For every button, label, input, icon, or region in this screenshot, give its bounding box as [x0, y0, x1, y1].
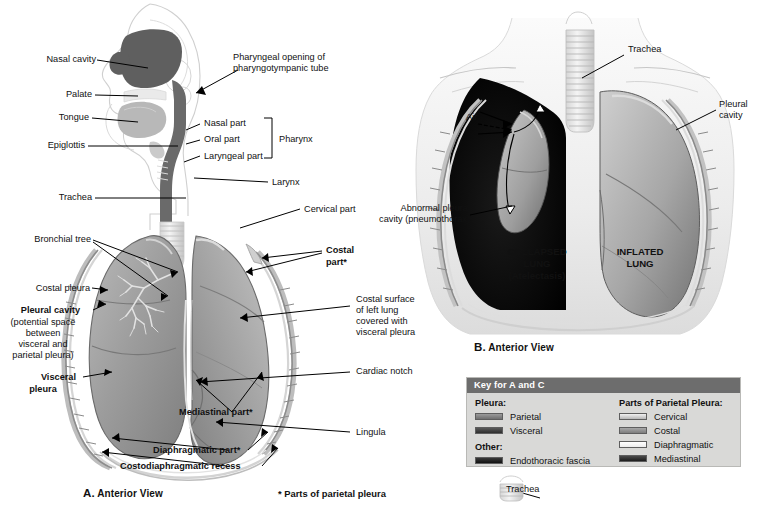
- key-right-title: Parts of Parietal Pleura:: [619, 398, 739, 408]
- label-costal-surface-line3: covered with: [356, 316, 408, 327]
- label-nasal-part: Nasal part: [204, 118, 246, 129]
- key-item-diaphragmatic: Diaphragmatic: [619, 438, 739, 451]
- key-label-mediastinal: Mediastinal: [654, 454, 700, 464]
- label-visceral-pleura-line2: pleura: [0, 384, 86, 395]
- caption-b-letter: B.: [474, 341, 486, 353]
- label-mediastinal-part: Mediastinal part*: [179, 407, 253, 418]
- label-costodiaphragmatic-recess: Costodiaphragmatic recess: [120, 461, 241, 472]
- key-item-parietal: Parietal: [475, 410, 625, 423]
- figure-root: Nasal cavity Palate Tongue Epiglottis Tr…: [0, 0, 763, 508]
- label-costal-pleura: Costal pleura: [2, 283, 90, 294]
- label-inflated-lung-line2: LUNG: [600, 258, 680, 269]
- label-tongue: Tongue: [8, 112, 89, 123]
- label-abnormal-pleural-line2: cavity (pneumothorax): [373, 214, 470, 225]
- label-cardiac-notch: Cardiac notch: [356, 366, 413, 377]
- key-header: Key for A and C: [467, 378, 740, 393]
- key-label-cervical: Cervical: [654, 412, 687, 422]
- footnote-parts-of-parietal-pleura: * Parts of parietal pleura: [278, 488, 386, 499]
- key-column-left: Pleura: Parietal Visceral Other: Endotho…: [475, 398, 625, 468]
- label-epiglottis: Epiglottis: [4, 140, 85, 151]
- key-item-cervical: Cervical: [619, 410, 739, 423]
- swatch-visceral-icon: [475, 427, 503, 434]
- label-laryngeal-part: Laryngeal part: [204, 151, 263, 162]
- label-costal-part-line2: part*: [326, 257, 347, 268]
- swatch-costal-icon: [619, 427, 647, 434]
- key-item-mediastinal: Mediastinal: [619, 452, 739, 465]
- label-costal-surface-line4: visceral pleura: [356, 327, 415, 338]
- label-pleural-cavity-line1: (potential space: [0, 317, 86, 328]
- swatch-cervical-icon: [619, 413, 647, 420]
- swatch-mediastinal-icon: [619, 455, 647, 462]
- key-label-endothoracic-fascia: Endothoracic fascia: [510, 456, 590, 466]
- label-pleural-cavity-line2: between: [0, 328, 86, 339]
- label-pharyngeal-opening-line1: Pharyngeal opening of: [233, 52, 325, 63]
- label-collapsed-lung-line1: COLLAPSED: [492, 246, 582, 257]
- label-palate: Palate: [8, 89, 92, 100]
- label-pharyngeal-opening-line2: pharyngotympanic tube: [233, 63, 329, 74]
- label-pleural-cavity-b-line2: cavity: [719, 110, 743, 121]
- key-body: Pleura: Parietal Visceral Other: Endotho…: [467, 393, 740, 467]
- caption-a-text: Anterior View: [97, 488, 163, 499]
- label-cervical-part: Cervical part: [304, 204, 356, 215]
- label-pleural-cavity-title: Pleural cavity: [0, 305, 80, 316]
- caption-a-letter: A.: [83, 487, 95, 499]
- label-larynx: Larynx: [272, 177, 300, 188]
- swatch-diaphragmatic-icon: [619, 441, 647, 448]
- swatch-parietal-icon: [475, 413, 503, 420]
- key-left-title: Pleura:: [475, 398, 625, 408]
- label-abnormal-pleural-line1: Abnormal pleural: [378, 203, 470, 214]
- label-pleural-cavity-line3: visceral and: [0, 339, 86, 350]
- key-label-visceral: Visceral: [510, 426, 543, 436]
- key-item-visceral: Visceral: [475, 424, 625, 437]
- key-item-costal: Costal: [619, 424, 739, 437]
- label-pleural-cavity-line4: parietal pleura): [0, 350, 86, 361]
- key-label-costal: Costal: [654, 426, 680, 436]
- key-label-diaphragmatic: Diaphragmatic: [654, 440, 713, 450]
- label-oral-part: Oral part: [204, 134, 240, 145]
- key-column-right: Parts of Parietal Pleura: Cervical Costa…: [619, 398, 739, 466]
- label-pharynx: Pharynx: [279, 134, 313, 145]
- label-costal-surface-line2: of left lung: [356, 305, 398, 316]
- key-item-endothoracic-fascia: Endothoracic fascia: [475, 454, 625, 467]
- label-costal-part-line1: Costal: [326, 245, 354, 256]
- label-costal-surface-line1: Costal surface: [356, 294, 415, 305]
- caption-panel-a: A. Anterior View: [83, 487, 163, 499]
- label-inflated-lung-line1: INFLATED: [600, 246, 680, 257]
- caption-panel-b: B. Anterior View: [474, 341, 554, 353]
- label-collapsed-lung-line2: LUNG: [492, 258, 582, 269]
- key-label-trachea: Trachea: [506, 484, 539, 494]
- label-bronchial-tree: Bronchial tree: [2, 234, 91, 245]
- label-nasal-cavity: Nasal cavity: [8, 54, 96, 65]
- key-other-title: Other:: [475, 442, 625, 452]
- label-air: Air: [466, 112, 477, 123]
- key-label-parietal: Parietal: [510, 412, 541, 422]
- label-lingula: Lingula: [356, 427, 386, 438]
- label-collapsed-lung-line3: (Atelectasis): [492, 270, 582, 281]
- label-trachea-a: Trachea: [8, 192, 92, 203]
- swatch-endothoracic-fascia-icon: [475, 457, 503, 464]
- label-diaphragmatic-part: Diaphragmatic part*: [153, 445, 240, 456]
- label-trachea-b: Trachea: [628, 44, 661, 55]
- key-box: Key for A and C Pleura: Parietal Viscera…: [466, 377, 741, 467]
- caption-b-text: Anterior View: [488, 342, 554, 353]
- label-visceral-pleura-line1: Visceral: [0, 372, 76, 383]
- label-pleural-cavity-b-line1: Pleural: [719, 99, 748, 110]
